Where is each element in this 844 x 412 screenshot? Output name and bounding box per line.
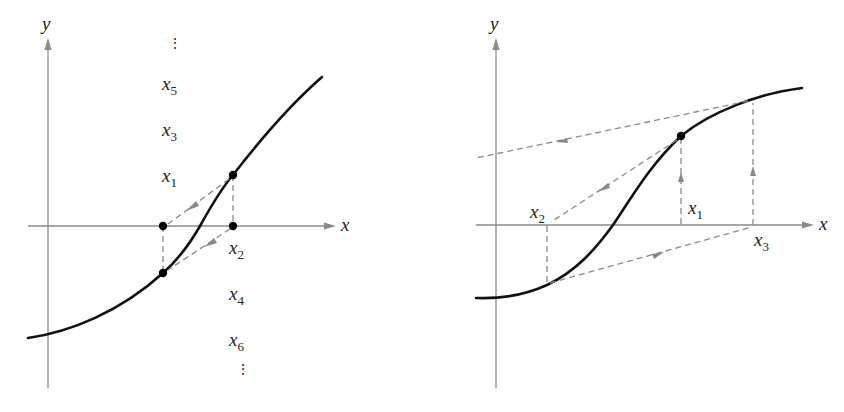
right-label-x2: x2 — [530, 202, 545, 225]
right-arrow-to-x3-icon — [652, 252, 664, 259]
right-arrow-to-x2-icon — [597, 183, 610, 192]
left-dashed-diagonal-upper — [168, 179, 229, 224]
left-point-on-curve-lower — [159, 269, 167, 277]
left-point-x-odd — [159, 222, 167, 230]
right-dashed-diagonal-to-x2 — [551, 140, 677, 222]
right-arrow-up-x1-icon — [678, 172, 684, 182]
right-dashed-diagonal-to-x3 — [550, 227, 752, 283]
left-point-on-curve-upper — [229, 171, 237, 179]
left-x-axis-label: x — [341, 215, 349, 234]
left-y-axis-arrow-icon — [45, 38, 52, 50]
right-panel — [476, 38, 814, 388]
right-arrow-up-x3-icon — [750, 166, 756, 176]
right-x-axis-label: x — [819, 214, 827, 233]
left-y-axis-label: y — [42, 14, 50, 33]
right-label-x3: x3 — [754, 230, 769, 253]
left-x-axis-arrow-icon — [324, 223, 336, 230]
left-label-x6: x6 — [229, 330, 244, 353]
right-y-axis-arrow-icon — [493, 38, 500, 50]
right-y-axis-label: y — [490, 14, 498, 33]
left-panel — [28, 38, 336, 388]
right-label-x1: x1 — [688, 198, 703, 221]
left-arrow-upper-icon — [186, 201, 199, 211]
right-x-axis-arrow-icon — [802, 222, 814, 229]
left-ellipsis-top: ⋮ — [168, 40, 176, 47]
right-point-on-curve-x1 — [677, 132, 685, 140]
left-label-x2: x2 — [229, 238, 244, 261]
diagram-canvas — [0, 0, 844, 412]
left-arrow-lower-icon — [204, 238, 217, 247]
left-dashed-diagonal-lower — [168, 229, 230, 270]
left-label-x4: x4 — [229, 284, 244, 307]
left-label-x1: x1 — [162, 166, 177, 189]
left-point-x-even — [229, 222, 237, 230]
left-label-x5: x5 — [162, 74, 177, 97]
left-ellipsis-bottom: ⋮ — [236, 366, 244, 373]
left-label-x3: x3 — [162, 120, 177, 143]
left-function-curve — [28, 77, 322, 338]
right-dashed-diagonal-out — [476, 101, 748, 158]
